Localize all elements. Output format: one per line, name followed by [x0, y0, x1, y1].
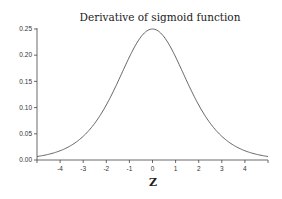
x-tick-label: 4 — [243, 165, 247, 172]
x-tick-label: -1 — [127, 165, 133, 172]
y-tick-label: 0.20 — [19, 51, 32, 58]
y-tick-label: 0.15 — [19, 78, 32, 85]
x-tick-label: -3 — [80, 165, 86, 172]
x-tick-label: -4 — [57, 165, 63, 172]
x-tick-label: 2 — [197, 165, 201, 172]
x-tick-label: -2 — [103, 165, 109, 172]
x-axis-label: Z — [149, 176, 157, 189]
sigmoid-derivative-curve — [37, 29, 268, 157]
chart: Derivative of sigmoid function 0.000.050… — [0, 0, 282, 199]
y-tick-label: 0.25 — [19, 25, 32, 32]
y-axis: 0.000.050.100.150.200.25 — [19, 25, 37, 163]
x-tick-label: 3 — [220, 165, 224, 172]
y-tick-label: 0.00 — [19, 156, 32, 163]
y-tick-label: 0.10 — [19, 104, 32, 111]
x-tick-label: 1 — [174, 165, 178, 172]
x-tick-label: 0 — [151, 165, 155, 172]
x-axis: -4-3-2-101234 — [37, 160, 268, 172]
y-tick-label: 0.05 — [19, 130, 32, 137]
chart-title: Derivative of sigmoid function — [80, 11, 241, 23]
